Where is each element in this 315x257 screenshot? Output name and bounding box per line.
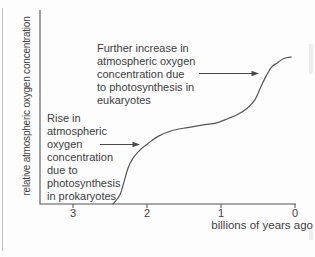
y-axis-label: relative atmospheric oxygen concentratio… [21, 11, 35, 201]
x-axis-tick-marks [73, 204, 295, 208]
x-axis-label: billions of years ago [211, 219, 313, 231]
arrowhead-right-icon [252, 71, 260, 76]
x-tick-label: 2 [137, 207, 157, 219]
x-tick-label: 1 [211, 207, 231, 219]
annotation-eukaryotes: Further increase in atmospheric oxygen c… [97, 42, 207, 107]
x-tick-label: 3 [63, 207, 83, 219]
annotation-prokaryotes: Rise in atmospheric oxygen concentration… [47, 112, 137, 203]
x-tick-label: 0 [285, 207, 305, 219]
eukaryote-annotation-arrow [199, 71, 259, 76]
oxygen-concentration-figure: relative atmospheric oxygen concentratio… [0, 0, 315, 257]
